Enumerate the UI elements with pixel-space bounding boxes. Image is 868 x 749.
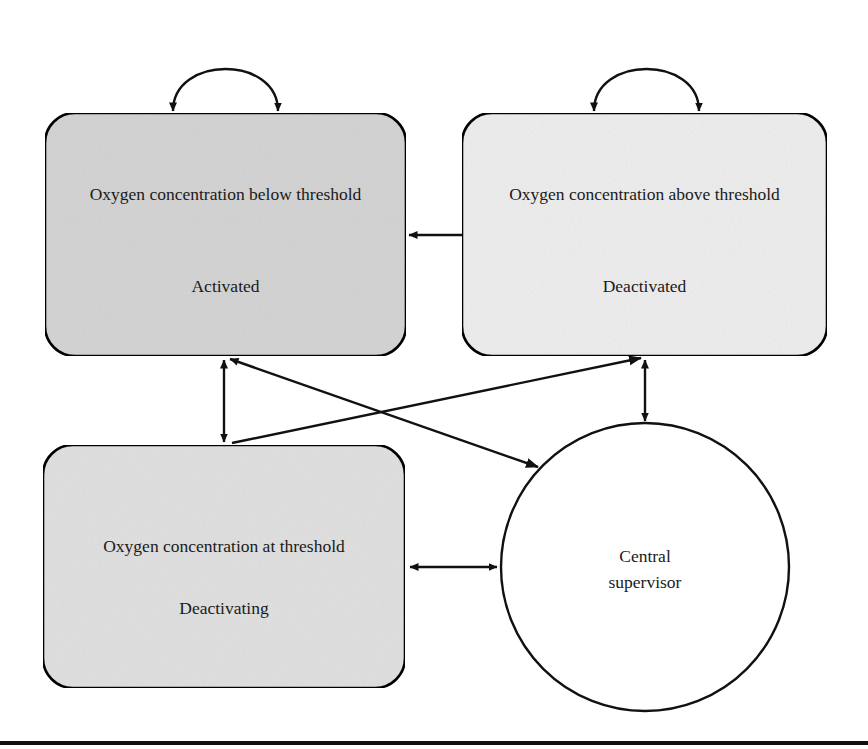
state-title-below: Oxygen concentration below threshold bbox=[90, 184, 362, 204]
supervisor-circle bbox=[501, 423, 789, 711]
supervisor-label-line2: supervisor bbox=[609, 572, 682, 592]
state-box-above bbox=[462, 113, 827, 356]
state-box-below bbox=[45, 113, 406, 356]
state-status-below: Activated bbox=[191, 276, 259, 296]
state-status-at: Deactivating bbox=[179, 598, 269, 618]
central-supervisor-node: Central supervisor bbox=[501, 423, 789, 711]
state-title-at: Oxygen concentration at threshold bbox=[103, 536, 345, 556]
state-status-above: Deactivated bbox=[603, 276, 687, 296]
supervisor-label-line1: Central bbox=[619, 546, 671, 566]
state-box-at bbox=[43, 445, 405, 688]
state-node-above-threshold: Oxygen concentration above threshold Dea… bbox=[462, 113, 827, 356]
self-loop-arrow-below bbox=[173, 69, 278, 111]
bottom-rule bbox=[0, 741, 868, 745]
self-loop-arrow-above bbox=[594, 69, 699, 111]
state-diagram: Oxygen concentration below threshold Act… bbox=[0, 0, 868, 749]
state-title-above: Oxygen concentration above threshold bbox=[509, 184, 780, 204]
state-node-at-threshold: Oxygen concentration at threshold Deacti… bbox=[43, 445, 405, 688]
state-node-below-threshold: Oxygen concentration below threshold Act… bbox=[45, 113, 406, 356]
